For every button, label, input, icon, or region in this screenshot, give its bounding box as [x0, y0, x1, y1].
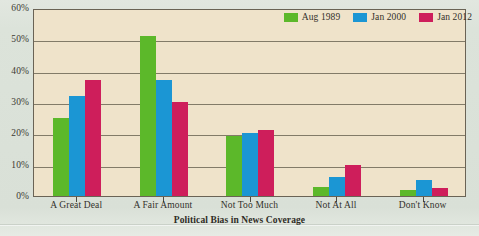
bar[interactable]	[172, 102, 188, 196]
plot-area	[33, 9, 466, 197]
bar[interactable]	[69, 96, 85, 196]
bar[interactable]	[85, 80, 101, 196]
x-axis-title: Political Bias in News Coverage	[0, 215, 479, 225]
y-axis-tick-label: 10%	[0, 161, 29, 171]
legend-item[interactable]: Jan 2012	[419, 12, 472, 22]
bar[interactable]	[140, 36, 156, 196]
bar[interactable]	[242, 133, 258, 196]
bar[interactable]	[416, 180, 432, 196]
x-axis-tick-label: Don't Know	[399, 200, 447, 210]
legend-swatch-icon	[419, 13, 433, 22]
bar[interactable]	[432, 188, 448, 196]
x-axis-tick-label: A Fair Amount	[133, 200, 192, 210]
bar[interactable]	[53, 118, 69, 196]
legend-label: Jan 2000	[371, 12, 406, 22]
bar[interactable]	[400, 190, 416, 196]
plot-inner	[34, 10, 465, 196]
bar-group-bars	[121, 10, 208, 196]
chart-legend: Aug 1989Jan 2000Jan 2012	[284, 12, 472, 22]
y-axis-tick-label: 30%	[0, 98, 29, 108]
bar[interactable]	[345, 165, 361, 196]
legend-label: Aug 1989	[302, 12, 341, 22]
y-axis-tick-label: 20%	[0, 130, 29, 140]
y-axis-tick-label: 50%	[0, 36, 29, 46]
y-axis-tick-label: 40%	[0, 67, 29, 77]
x-axis-tick-label: A Great Deal	[50, 200, 102, 210]
bar-group	[294, 10, 381, 196]
bar-group-bars	[207, 10, 294, 196]
bar[interactable]	[156, 80, 172, 196]
y-axis-tick-label: 0%	[0, 192, 29, 202]
legend-item[interactable]: Aug 1989	[284, 12, 341, 22]
bar-group	[34, 10, 121, 196]
bar-group-bars	[380, 10, 467, 196]
bar-group-bars	[294, 10, 381, 196]
bar-group	[380, 10, 467, 196]
bar-group-bars	[34, 10, 121, 196]
bar[interactable]	[329, 177, 345, 196]
legend-swatch-icon	[353, 13, 367, 22]
legend-swatch-icon	[284, 13, 298, 22]
bar[interactable]	[313, 187, 329, 196]
bar[interactable]	[258, 130, 274, 196]
bar-group	[207, 10, 294, 196]
bar-group	[121, 10, 208, 196]
x-axis-tick-label: Not At All	[316, 200, 357, 210]
bar[interactable]	[226, 136, 242, 196]
y-axis-tick-label: 60%	[0, 4, 29, 14]
legend-item[interactable]: Jan 2000	[353, 12, 406, 22]
chart-page: 0%10%20%30%40%50%60% A Great DealA Fair …	[0, 0, 479, 236]
legend-label: Jan 2012	[437, 12, 472, 22]
x-axis-tick-label: Not Too Much	[221, 200, 278, 210]
